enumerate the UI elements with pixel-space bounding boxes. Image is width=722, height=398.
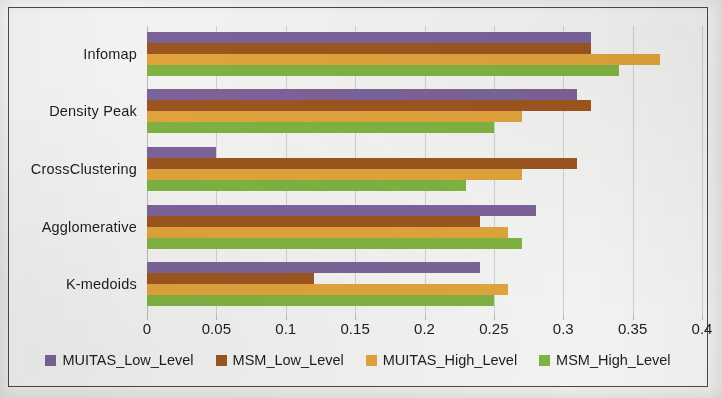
- chart-screenshot: K-medoidsAgglomerativeCrossClusteringDen…: [0, 0, 722, 398]
- bar: [147, 147, 216, 158]
- legend-item[interactable]: MUITAS_High_Level: [366, 352, 517, 368]
- chart-frame: K-medoidsAgglomerativeCrossClusteringDen…: [8, 7, 708, 387]
- legend-item[interactable]: MSM_Low_Level: [216, 352, 344, 368]
- category-axis-label: K-medoids: [66, 276, 137, 292]
- category-axis-label: CrossClustering: [31, 161, 137, 177]
- category-axis-label: Density Peak: [49, 103, 137, 119]
- bar: [147, 89, 577, 100]
- legend-item[interactable]: MUITAS_Low_Level: [45, 352, 193, 368]
- bar: [147, 111, 522, 122]
- bar: [147, 216, 480, 227]
- legend-swatch-icon: [45, 355, 56, 366]
- bar: [147, 65, 619, 76]
- legend-label: MSM_High_Level: [556, 352, 670, 368]
- category-axis-labels: K-medoidsAgglomerativeCrossClusteringDen…: [9, 26, 137, 314]
- bar: [147, 180, 466, 191]
- bar: [147, 32, 591, 43]
- bar: [147, 169, 522, 180]
- bar: [147, 122, 494, 133]
- value-axis-tick-label: 0.35: [618, 320, 647, 337]
- legend-label: MUITAS_Low_Level: [62, 352, 193, 368]
- bar: [147, 205, 536, 216]
- legend-item[interactable]: MSM_High_Level: [539, 352, 670, 368]
- gridline: [702, 26, 703, 314]
- bar: [147, 295, 494, 306]
- bar: [147, 43, 591, 54]
- value-axis-tick-label: 0.1: [275, 320, 296, 337]
- legend-label: MSM_Low_Level: [233, 352, 344, 368]
- value-axis-tick-label: 0.3: [553, 320, 574, 337]
- value-axis-tick-label: 0: [143, 320, 151, 337]
- category-axis-label: Infomap: [83, 46, 137, 62]
- bar: [147, 54, 660, 65]
- legend-swatch-icon: [539, 355, 550, 366]
- bars-container: [147, 26, 702, 314]
- category-axis-label: Agglomerative: [42, 219, 137, 235]
- bar: [147, 273, 314, 284]
- value-axis-tick-label: 0.05: [202, 320, 231, 337]
- value-axis-tick-label: 0.15: [341, 320, 370, 337]
- value-axis-tick-label: 0.4: [692, 320, 713, 337]
- bar: [147, 238, 522, 249]
- bar: [147, 262, 480, 273]
- value-axis-tick-label: 0.2: [414, 320, 435, 337]
- bar: [147, 158, 577, 169]
- legend-label: MUITAS_High_Level: [383, 352, 517, 368]
- bar: [147, 284, 508, 295]
- bar: [147, 100, 591, 111]
- bar: [147, 227, 508, 238]
- legend-swatch-icon: [216, 355, 227, 366]
- value-axis-tick-label: 0.25: [479, 320, 508, 337]
- legend-swatch-icon: [366, 355, 377, 366]
- chart-legend: MUITAS_Low_LevelMSM_Low_LevelMUITAS_High…: [9, 352, 707, 368]
